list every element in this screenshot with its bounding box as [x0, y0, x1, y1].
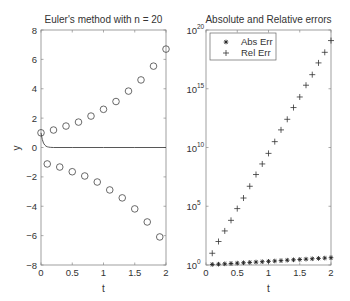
errors-plot-title: Absolute and Relative errors [205, 14, 331, 25]
errors-legend: Abs Err Rel Err [210, 33, 276, 60]
euler-y-label: y [11, 146, 22, 151]
y-tick-label: −2 [26, 171, 37, 182]
asterisk-marker [235, 261, 240, 266]
asterisk-marker [310, 256, 315, 261]
figure: Euler's method with n = 20 00.511.52−8−6… [0, 0, 350, 301]
y-tick-label: −8 [26, 260, 37, 271]
y-tick-label: 0 [32, 142, 37, 153]
y-tick-exponent: 10 [197, 141, 205, 148]
y-tick-exponent: 5 [197, 199, 201, 206]
x-tick-label: 0.5 [66, 267, 79, 278]
x-tick-label: 2 [328, 267, 333, 278]
x-tick-label: 1.5 [293, 267, 306, 278]
asterisk-marker [266, 259, 271, 264]
asterisk-marker [224, 40, 229, 45]
x-tick-label: 1 [101, 267, 106, 278]
x-tick-label: 1.5 [128, 267, 141, 278]
asterisk-marker [316, 256, 321, 261]
errors-x-label: t [267, 283, 270, 294]
y-tick-label: 10 [186, 143, 197, 154]
asterisk-marker [291, 258, 296, 263]
y-tick-label: 8 [32, 25, 37, 36]
y-tick-label: 4 [32, 83, 37, 94]
asterisk-marker [272, 259, 277, 264]
asterisk-marker [279, 258, 284, 263]
asterisk-marker [304, 257, 309, 262]
asterisk-marker [216, 262, 221, 267]
asterisk-marker [210, 262, 215, 267]
y-tick-label: 2 [32, 113, 37, 124]
x-tick-label: 0.5 [231, 267, 244, 278]
asterisk-marker [254, 260, 259, 265]
y-tick-label: 10 [186, 201, 197, 212]
x-tick-label: 0 [38, 267, 43, 278]
x-tick-label: 1 [266, 267, 271, 278]
asterisk-marker [229, 261, 234, 266]
errors-subplot: Absolute and Relative errors 00.511.5210… [186, 14, 334, 294]
asterisk-marker [241, 260, 246, 265]
x-tick-label: 2 [163, 267, 168, 278]
asterisk-marker [260, 259, 265, 264]
y-tick-label: 10 [186, 260, 197, 271]
euler-x-label: t [102, 283, 105, 294]
x-tick-label: 0 [203, 267, 208, 278]
legend-abs-err-label: Abs Err [241, 36, 273, 47]
legend-abs-err-marker-asterisk-icon [224, 40, 229, 45]
y-tick-exponent: 0 [197, 258, 201, 265]
y-tick-label: −4 [26, 201, 37, 212]
y-tick-label: 10 [186, 84, 197, 95]
y-tick-label: −6 [26, 230, 37, 241]
asterisk-marker [322, 256, 327, 261]
y-tick-label: 6 [32, 54, 37, 65]
y-tick-label: 10 [186, 25, 197, 36]
euler-subplot: Euler's method with n = 20 00.511.52−8−6… [11, 14, 169, 294]
asterisk-marker [297, 257, 302, 262]
legend-rel-err-label: Rel Err [241, 47, 271, 58]
euler-plot-title: Euler's method with n = 20 [45, 14, 163, 25]
asterisk-marker [285, 258, 290, 263]
y-tick-exponent: 20 [197, 23, 205, 30]
y-tick-exponent: 15 [197, 82, 205, 89]
asterisk-marker [222, 262, 227, 267]
asterisk-marker [247, 260, 252, 265]
